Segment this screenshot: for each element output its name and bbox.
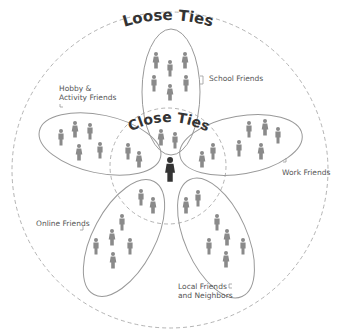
label-hobby-line2: Activity Friends: [59, 93, 116, 102]
label-work-friends: Work Friends: [282, 168, 330, 177]
label-local-line1: Local Friends: [178, 282, 233, 291]
label-hobby-line1: Hobby &: [59, 84, 116, 93]
close-ties-title: Close Ties: [125, 109, 212, 134]
label-local-friends: Local Friends and Neighbors: [178, 282, 233, 300]
center-person-icon: [165, 157, 175, 182]
label-online-friends: Online Friends: [36, 219, 90, 228]
loose-ties-title: Loose Ties: [120, 6, 215, 31]
label-school-friends: School Friends: [209, 74, 263, 83]
social-ties-diagram: Loose Ties Close Ties: [0, 0, 337, 334]
petal-online: [67, 167, 182, 309]
label-hobby-friends: Hobby & Activity Friends: [59, 84, 116, 102]
label-local-line2: and Neighbors: [178, 291, 233, 300]
